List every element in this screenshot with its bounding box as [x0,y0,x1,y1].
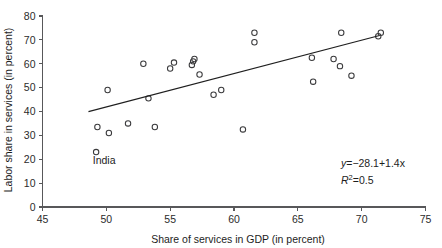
r-squared-text: R2=0.5 [341,173,374,186]
x-tick-label: 60 [228,213,240,225]
x-tick-label: 55 [164,213,176,225]
x-tick-label: 65 [292,213,304,225]
chart-canvas: 01020304050607080 45505560657075 India S… [0,0,442,248]
x-tick-label: 50 [100,213,112,225]
data-point [125,121,130,126]
data-point [310,79,315,84]
scatter-chart-figure: 01020304050607080 45505560657075 India S… [0,0,442,248]
y-tick-label: 20 [24,153,36,165]
data-point [252,40,257,45]
data-point [152,124,157,129]
data-point [219,87,224,92]
x-axis-title: Share of services in GDP (in percent) [151,233,325,245]
y-tick-label: 60 [24,58,36,70]
data-point [167,66,172,71]
data-point-label: India [93,154,116,166]
regression-line [88,35,379,111]
x-tick-label: 45 [37,213,49,225]
y-tick-label: 0 [30,201,36,213]
data-point [105,87,110,92]
y-tick-label: 30 [24,129,36,141]
data-point [337,63,342,68]
x-axis: 45505560657075 [37,207,432,225]
regression-line-segment [88,35,379,111]
point-labels: India [93,154,116,166]
data-point [349,73,354,78]
data-point [171,60,176,65]
fit-annotation: y=−28.1+1.4x R2=0.5 [340,157,406,186]
y-axis: 01020304050607080 [24,10,43,213]
data-point [211,92,216,97]
y-tick-label: 70 [24,34,36,46]
data-point [141,61,146,66]
y-tick-label: 80 [24,10,36,22]
equation-rhs: =−28.1+1.4x [346,157,405,169]
data-point [106,130,111,135]
data-point [240,127,245,132]
data-point [309,55,314,60]
equation-text: y=−28.1+1.4x [340,157,406,169]
data-point [252,30,257,35]
data-point [95,124,100,129]
data-point [197,72,202,77]
x-tick-label: 75 [420,213,432,225]
y-tick-label: 40 [24,105,36,117]
r-squared-value: =0.5 [353,174,374,186]
data-point [339,30,344,35]
y-tick-label: 10 [24,177,36,189]
data-point [189,62,194,67]
x-tick-label: 70 [356,213,368,225]
y-axis-title: Labor share in services (in percent) [2,28,14,193]
data-point [331,56,336,61]
data-points [93,30,383,155]
y-tick-label: 50 [24,81,36,93]
